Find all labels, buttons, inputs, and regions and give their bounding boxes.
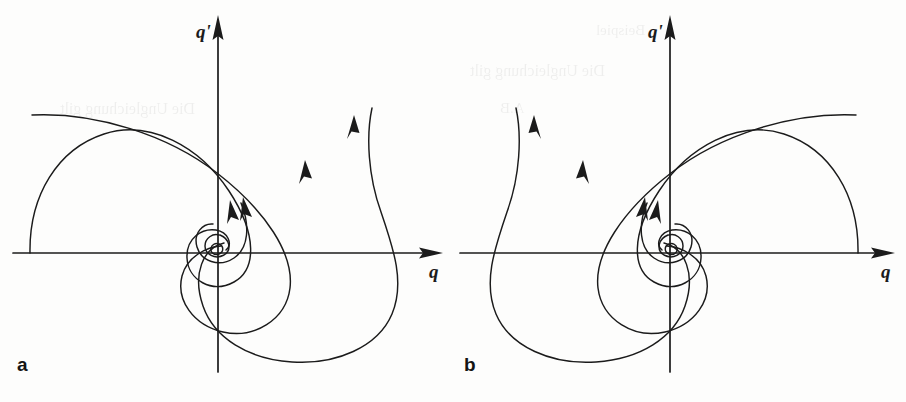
panel-a: q' q a [0, 0, 453, 402]
panel-b: q' q b [453, 0, 906, 402]
y-axis-label: q' [196, 22, 211, 41]
trajectory-outer [199, 108, 398, 362]
trajectory-outer [490, 108, 689, 362]
flow-arrow-outer-icon [347, 115, 360, 139]
flow-arrow-middle-icon [299, 160, 312, 184]
panel-a-plot [0, 0, 453, 402]
trajectory-middle [32, 115, 312, 334]
figure-root: Beispiel Die Ungleichung gilt A.B Die Un… [0, 0, 906, 402]
panel-b-mirror-group [460, 15, 875, 372]
panel-label-b: b [464, 355, 476, 374]
x-axis-label: q [881, 262, 891, 281]
trajectory-middle [576, 115, 856, 334]
y-axis [213, 15, 224, 372]
panel-b-plot [453, 0, 906, 402]
flow-arrow-outer-icon [529, 115, 542, 139]
x-axis-label: q [429, 262, 439, 281]
y-axis-label: q' [648, 22, 663, 41]
panel-label-a: a [17, 355, 28, 374]
flow-arrow-middle-icon [576, 160, 589, 184]
